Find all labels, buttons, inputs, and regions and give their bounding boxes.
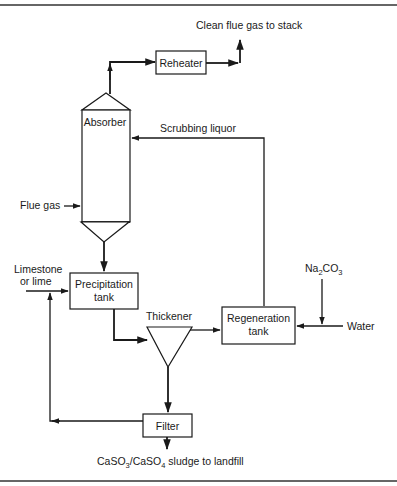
limestone-label-line1: Limestone — [14, 263, 63, 275]
precip-label-line1: Precipitation — [75, 278, 133, 290]
regen-label-line2: tank — [249, 325, 270, 337]
absorber-top-cone — [82, 93, 130, 110]
precip-label-line2: tank — [94, 291, 115, 303]
limestone-label-line2: or lime — [20, 275, 52, 287]
scrubbing-liquor-label: Scrubbing liquor — [160, 122, 236, 134]
absorber-label: Absorber — [84, 116, 127, 128]
na2co3-label: Na2CO3 — [305, 262, 343, 277]
reheater-label: Reheater — [159, 57, 203, 69]
clean-gas-label: Clean flue gas to stack — [196, 19, 303, 31]
thickener-cone — [147, 327, 192, 367]
flue-gas-label: Flue gas — [20, 199, 60, 211]
thickener-label: Thickener — [146, 310, 193, 322]
regen-label-line1: Regeneration — [227, 312, 290, 324]
absorber-bottom-cone — [81, 222, 129, 242]
scrubbing-liquor-line — [132, 138, 264, 306]
sludge-label: CaSO3/CaSO4 sludge to landfill — [97, 455, 244, 470]
precip-to-thickener-line — [114, 309, 147, 340]
filter-recycle-line — [50, 293, 143, 421]
filter-label: Filter — [156, 420, 180, 432]
absorber-to-reheater-line — [110, 62, 155, 94]
water-label: Water — [347, 320, 375, 332]
process-flow-diagram: Reheater Clean flue gas to stack Absorbe… — [0, 0, 397, 486]
